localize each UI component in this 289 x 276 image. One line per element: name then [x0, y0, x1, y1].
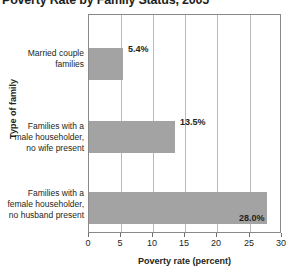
category-label-line: female householder, — [0, 199, 84, 210]
bar-value-married-couple-families: 5.4% — [128, 44, 149, 54]
bar-value-male-householder: 13.5% — [180, 117, 206, 127]
category-label-line: Families with a — [0, 121, 84, 132]
tick-label-20: 20 — [206, 238, 226, 248]
tick-mark-10 — [152, 233, 153, 237]
category-label-line: families — [0, 59, 84, 70]
x-axis-title: Poverty rate (percent) — [88, 256, 281, 266]
chart-title: Poverty Rate by Family Status, 2005 — [2, 0, 287, 7]
bar-value-female-householder: 28.0% — [239, 213, 265, 223]
category-label-line: Married couple — [0, 48, 84, 59]
category-label-line: no husband present — [0, 210, 84, 221]
tick-label-15: 15 — [174, 238, 194, 248]
tick-mark-0 — [88, 233, 89, 237]
category-label-line: no wife present — [0, 143, 84, 154]
tick-label-0: 0 — [78, 238, 98, 248]
tick-mark-25 — [249, 233, 250, 237]
category-label-line: male householder, — [0, 132, 84, 143]
category-label-male-householder: Families with a male householder, no wif… — [0, 121, 84, 154]
bar-male-householder[interactable] — [89, 121, 175, 153]
category-label-line: Families with a — [0, 188, 84, 199]
tick-label-10: 10 — [142, 238, 162, 248]
tick-label-5: 5 — [110, 238, 130, 248]
category-label-married-couple-families: Married couple families — [0, 48, 84, 70]
tick-label-30: 30 — [271, 238, 289, 248]
tick-mark-5 — [120, 233, 121, 237]
tick-mark-15 — [184, 233, 185, 237]
bar-married-couple-families[interactable] — [89, 48, 123, 80]
tick-label-25: 25 — [239, 238, 259, 248]
category-label-female-householder: Families with a female householder, no h… — [0, 188, 84, 221]
tick-mark-20 — [216, 233, 217, 237]
tick-mark-30 — [281, 233, 282, 237]
